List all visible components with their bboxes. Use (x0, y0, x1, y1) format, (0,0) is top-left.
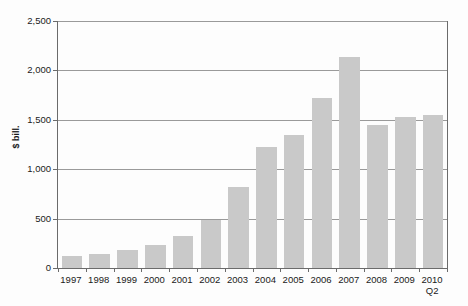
bars-group (58, 21, 447, 268)
bar (284, 135, 305, 268)
y-tick-label: 2,000 (3, 65, 51, 75)
x-tick-mark (86, 268, 87, 272)
bar (145, 245, 166, 268)
x-tick-mark (280, 268, 281, 272)
x-tick-label: 2008 (363, 274, 391, 285)
x-tick-mark (364, 268, 365, 272)
y-tick-label: 1,500 (3, 115, 51, 125)
x-tick-mark (197, 268, 198, 272)
x-tick-mark (58, 268, 59, 272)
bar-chart: $ bill. 05001,0001,5002,0002,500 1997199… (0, 0, 468, 306)
y-tick-label: 2,500 (3, 16, 51, 26)
bar (173, 236, 194, 268)
x-tick-label-quarter: Q2 (418, 285, 446, 296)
x-tick-label: 2004 (252, 274, 280, 285)
x-tick-label-year: 2008 (366, 274, 387, 285)
x-tick-label-year: 2000 (144, 274, 165, 285)
x-tick-label-year: 2006 (310, 274, 331, 285)
x-tick-label-year: 2010 (422, 274, 443, 285)
x-tick-label-year: 2004 (255, 274, 276, 285)
x-tick-label: 2010Q2 (418, 274, 446, 296)
x-tick-label: 2000 (140, 274, 168, 285)
bar (117, 250, 138, 268)
x-tick-label-year: 2002 (199, 274, 220, 285)
y-tick-label: 500 (3, 214, 51, 224)
x-tick-label-year: 2001 (171, 274, 192, 285)
bar (312, 98, 333, 268)
y-tick-label: 1,000 (3, 164, 51, 174)
x-tick-label-year: 1997 (60, 274, 81, 285)
x-tick-mark (336, 268, 337, 272)
bar (256, 147, 277, 268)
x-tick-label: 2006 (307, 274, 335, 285)
x-tick-mark (308, 268, 309, 272)
x-tick-mark (419, 268, 420, 272)
x-tick-label-year: 2009 (394, 274, 415, 285)
bar (89, 254, 110, 268)
x-tick-label: 2003 (224, 274, 252, 285)
bar (339, 57, 360, 268)
x-tick-label: 1998 (85, 274, 113, 285)
bar (201, 220, 222, 268)
bar (62, 256, 83, 268)
x-tick-mark (169, 268, 170, 272)
x-tick-label: 2005 (279, 274, 307, 285)
plot-area (57, 21, 448, 269)
x-tick-label: 1997 (57, 274, 85, 285)
bar (395, 117, 416, 268)
x-tick-mark (114, 268, 115, 272)
x-tick-label: 1999 (113, 274, 141, 285)
x-tick-mark (141, 268, 142, 272)
y-tick-label: 0 (3, 263, 51, 273)
x-tick-mark (447, 268, 448, 272)
x-tick-label-year: 2003 (227, 274, 248, 285)
x-tick-label-year: 1998 (88, 274, 109, 285)
x-tick-mark (225, 268, 226, 272)
x-tick-label: 2001 (168, 274, 196, 285)
x-tick-label: 2009 (390, 274, 418, 285)
bar (228, 187, 249, 269)
x-tick-label-year: 2005 (283, 274, 304, 285)
x-tick-mark (391, 268, 392, 272)
bar (423, 115, 444, 268)
x-tick-label: 2007 (335, 274, 363, 285)
x-tick-label-year: 1999 (116, 274, 137, 285)
x-tick-label-year: 2007 (338, 274, 359, 285)
x-tick-label: 2002 (196, 274, 224, 285)
x-tick-mark (253, 268, 254, 272)
bar (367, 125, 388, 268)
